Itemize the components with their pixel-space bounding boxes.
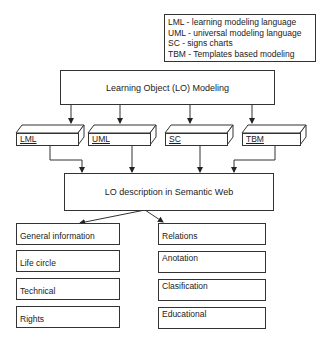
category-label: Technical	[20, 286, 55, 296]
language-box-uml: UML	[88, 133, 151, 146]
language-box-lml: LML	[16, 133, 79, 146]
category-box-educational: Educational	[158, 307, 266, 329]
language-label: SC	[169, 134, 181, 144]
legend-box: LML - learning modeling language UML - u…	[164, 14, 316, 62]
category-box-technical: Technical	[16, 278, 120, 300]
language-box-sc: SC	[165, 133, 228, 146]
lo-modeling-box: Learning Object (LO) Modeling	[60, 70, 275, 105]
category-label: Life circle	[20, 258, 56, 268]
category-label: Anotation	[162, 253, 198, 263]
legend-line: LML - learning modeling language	[168, 17, 312, 28]
legend-line: UML - universal modeling language	[168, 28, 312, 39]
category-label: General information	[20, 231, 95, 241]
category-label: Educational	[162, 309, 206, 319]
language-label: UML	[92, 134, 110, 144]
category-label: Relations	[162, 231, 197, 241]
category-box-general-information: General information	[16, 223, 120, 245]
category-box-relations: Relations	[158, 223, 266, 245]
category-label: Rights	[20, 314, 44, 324]
category-box-rights: Rights	[16, 306, 120, 328]
category-box-anotation: Anotation	[158, 251, 266, 273]
lo-description-box: LO description in Semantic Web	[64, 173, 274, 211]
category-box-clasification: Clasification	[158, 279, 266, 301]
language-box-tbm: TBM	[242, 133, 301, 146]
language-label: LML	[20, 134, 37, 144]
lo-description-label: LO description in Semantic Web	[105, 187, 233, 197]
category-box-life-circle: Life circle	[16, 250, 120, 272]
category-label: Clasification	[162, 281, 208, 291]
legend-line: TBM - Templates based modeling	[168, 49, 312, 60]
legend-line: SC - signs charts	[168, 38, 312, 49]
lo-modeling-label: Learning Object (LO) Modeling	[106, 83, 229, 93]
language-label: TBM	[246, 134, 264, 144]
